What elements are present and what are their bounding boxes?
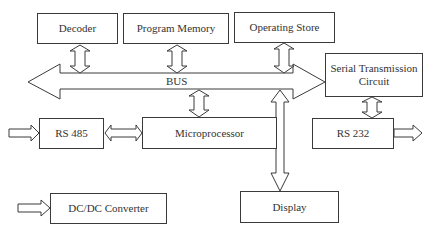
rs232-label: RS 232: [337, 127, 370, 140]
rs485-microprocessor-double-arrow: [105, 125, 142, 141]
microprocessor-label: Microprocessor: [175, 127, 244, 140]
decoder-block: Decoder: [37, 13, 118, 44]
program-memory-block: Program Memory: [123, 13, 229, 44]
dcdc-converter-block: DC/DC Converter: [50, 193, 167, 224]
program-memory-label: Program Memory: [137, 22, 216, 35]
decoder-bus-double-arrow: [70, 45, 90, 73]
program-memory-bus-double-arrow: [167, 45, 187, 73]
bus-microprocessor-double-arrow: [189, 90, 209, 117]
display-block: Display: [240, 191, 339, 223]
operating-store-bus-double-arrow: [274, 43, 294, 73]
display-label: Display: [272, 201, 306, 214]
serial-transmission-label: Serial Transmission Circuit: [330, 62, 418, 88]
microprocessor-block: Microprocessor: [142, 117, 277, 149]
serial-rs232-double-arrow: [362, 97, 382, 118]
serial-transmission-block: Serial Transmission Circuit: [325, 53, 423, 97]
decoder-label: Decoder: [59, 22, 96, 35]
operating-store-block: Operating Store: [234, 12, 335, 43]
rs485-block: RS 485: [39, 118, 104, 149]
block-diagram: Decoder Program Memory Operating Store S…: [0, 0, 434, 235]
rs485-input-arrow: [9, 125, 39, 141]
dcdc-input-arrow: [18, 200, 50, 216]
operating-store-label: Operating Store: [250, 21, 320, 34]
bus-label: BUS: [166, 75, 187, 87]
rs232-output-arrow: [394, 125, 422, 141]
rs232-block: RS 232: [312, 118, 394, 149]
dcdc-converter-label: DC/DC Converter: [68, 202, 148, 215]
rs485-label: RS 485: [55, 127, 88, 140]
